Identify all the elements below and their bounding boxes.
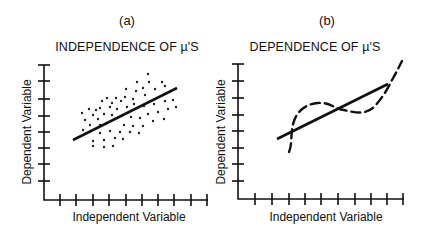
panel-b-axes (238, 64, 404, 199)
panel-a-label: (a) (119, 13, 135, 28)
panel-a-title: INDEPENDENCE OF µ'S (55, 40, 198, 54)
panel-a-x-axis-label: Independent Variable (72, 210, 186, 224)
panel-b-label: (b) (319, 13, 335, 28)
panel-b-y-axis-label: Dependent Variable (214, 79, 228, 185)
panel-b-fit-line (277, 84, 388, 139)
panel-a-scatter-points (81, 73, 177, 148)
panel-b-x-axis-label: Independent Variable (269, 210, 383, 224)
panel-b: (b) DEPENDENCE OF µ'S (214, 13, 404, 224)
figure: (a) INDEPENDENCE OF µ'S (0, 0, 423, 236)
panel-a: (a) INDEPENDENCE OF µ'S (20, 13, 208, 224)
panel-a-axes (44, 65, 208, 200)
panel-b-title: DEPENDENCE OF µ'S (250, 40, 381, 54)
panel-a-y-axis-label: Dependent Variable (20, 79, 34, 185)
